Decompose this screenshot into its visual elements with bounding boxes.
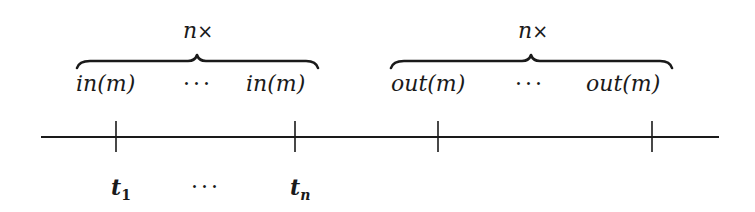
in-group-multiplier: n× [183,20,213,42]
t-subscript: n [300,187,310,203]
out-group-multiplier: n× [518,20,548,42]
multiplier-n: n [518,18,532,43]
t-base: t [290,174,300,200]
t-subscript: 1 [121,187,131,203]
times-symbol: × [532,20,548,42]
multiplier-n: n [183,18,197,43]
times-symbol: × [197,20,213,42]
tick-label-ellipsis: ··· [191,176,221,198]
tick-label-tn: tn [290,176,310,198]
right-overbrace [391,55,672,68]
left-overbrace [77,55,318,68]
out-event-first: out(m) [391,73,465,95]
in-event-first: in(m) [76,73,135,95]
out-ellipsis: ··· [515,73,545,95]
out-event-last: out(m) [586,73,660,95]
in-event-last: in(m) [246,73,305,95]
t-base: t [111,174,121,200]
tick-label-t1: t1 [111,176,131,198]
in-ellipsis: ··· [183,73,213,95]
timeline-diagram: n× n× in(m) ··· in(m) out(m) ··· out(m) … [0,0,755,212]
